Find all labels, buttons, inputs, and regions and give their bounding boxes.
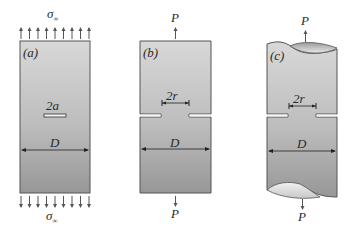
ligament-label-b: 2r — [166, 88, 179, 103]
panel-label-b: (b) — [143, 45, 158, 60]
fracture-specimens-diagram: σ∞ (a) 2a D — [0, 0, 354, 231]
plate-b — [140, 41, 211, 193]
central-crack — [44, 114, 66, 117]
top-load-label-c: P — [300, 13, 309, 28]
panel-c: P (c) 2r D P — [267, 13, 337, 224]
crack-length-label: 2a — [46, 98, 60, 113]
top-stress-label: σ∞ — [47, 6, 58, 23]
panel-a: σ∞ (a) 2a D — [19, 6, 91, 225]
bottom-load-label-c: P — [297, 209, 306, 224]
ligament-label-c: 2r — [293, 91, 306, 106]
panel-b: P (b) 2r D P — [140, 10, 211, 221]
width-label-a: D — [49, 135, 60, 150]
width-label-b: D — [169, 135, 180, 150]
bottom-stress-label: σ∞ — [46, 208, 57, 225]
panel-label-c: (c) — [270, 48, 284, 63]
top-load-label-b: P — [170, 10, 179, 25]
width-label-c: D — [296, 136, 307, 151]
bottom-load-label-b: P — [170, 206, 179, 221]
round-bar-c — [267, 42, 337, 197]
panel-label-a: (a) — [23, 45, 38, 60]
